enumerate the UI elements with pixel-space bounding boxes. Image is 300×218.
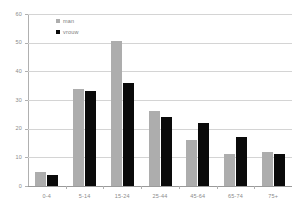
x-tick-label-45-64: 45-64: [178, 193, 218, 199]
y-tick-label: 20: [0, 125, 22, 131]
y-tick-mark: [25, 186, 28, 187]
legend-item-man: man: [56, 16, 79, 25]
legend: man vrouw: [56, 16, 79, 38]
x-tick-label-75+: 75+: [253, 193, 293, 199]
bar-group: [149, 14, 172, 186]
bar-vrouw-0-4: [47, 175, 58, 186]
legend-item-vrouw: vrouw: [56, 27, 79, 36]
y-tick-label: 30: [0, 97, 22, 103]
bar-man-65-74: [224, 154, 235, 186]
bar-chart: 0102030405060 0-45-1415-2425-4445-6465-7…: [0, 0, 300, 218]
bar-vrouw-5-14: [85, 91, 96, 186]
x-tick-mark: [103, 186, 104, 189]
bar-group: [35, 14, 58, 186]
x-tick-label-65-74: 65-74: [215, 193, 255, 199]
bar-man-75+: [262, 152, 273, 186]
x-tick-mark: [66, 186, 67, 189]
legend-swatch-vrouw-icon: [56, 30, 60, 34]
x-tick-label-5-14: 5-14: [65, 193, 105, 199]
bar-group: [73, 14, 96, 186]
y-tick-label: 60: [0, 11, 22, 17]
bar-group: [111, 14, 134, 186]
bar-man-45-64: [186, 140, 197, 186]
x-tick-label-0-4: 0-4: [27, 193, 67, 199]
y-tick-label: 0: [0, 183, 22, 189]
plot-area: [28, 14, 292, 186]
legend-label-vrouw: vrouw: [63, 29, 79, 35]
legend-swatch-man-icon: [56, 19, 60, 23]
bar-groups: [28, 14, 292, 186]
bar-vrouw-65-74: [236, 137, 247, 186]
bar-vrouw-75+: [274, 154, 285, 186]
x-tick-mark: [217, 186, 218, 189]
gridline: [28, 186, 292, 187]
x-tick-mark: [254, 186, 255, 189]
bar-vrouw-45-64: [198, 123, 209, 186]
bar-man-15-24: [111, 41, 122, 186]
bar-group: [186, 14, 209, 186]
y-tick-label: 10: [0, 154, 22, 160]
bar-vrouw-25-44: [161, 117, 172, 186]
x-tick-label-15-24: 15-24: [102, 193, 142, 199]
x-tick-mark: [141, 186, 142, 189]
x-tick-label-25-44: 25-44: [140, 193, 180, 199]
y-tick-label: 40: [0, 68, 22, 74]
bar-group: [262, 14, 285, 186]
bar-man-5-14: [73, 89, 84, 186]
bar-group: [224, 14, 247, 186]
y-tick-label: 50: [0, 39, 22, 45]
bar-man-25-44: [149, 111, 160, 186]
bar-man-0-4: [35, 172, 46, 186]
bar-vrouw-15-24: [123, 83, 134, 186]
legend-label-man: man: [63, 18, 74, 24]
x-tick-mark: [179, 186, 180, 189]
